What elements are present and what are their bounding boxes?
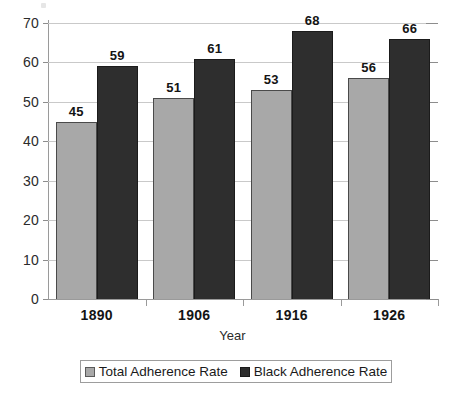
y-axis-tick-mark <box>43 220 48 221</box>
x-axis-tick-label: 1926 <box>341 307 439 323</box>
x-axis-category-separator <box>146 299 147 306</box>
y-axis-tick-label: 0 <box>31 291 39 307</box>
bar-chart: 0102030405060704559516153685666 18901906… <box>0 0 465 395</box>
y-axis-tick-mark <box>43 141 48 142</box>
y-axis-tick-label: 10 <box>23 252 39 268</box>
plot-area: 0102030405060704559516153685666 <box>48 23 438 299</box>
y-axis-tick-mark-right <box>426 299 438 300</box>
bar <box>251 90 292 299</box>
bar-value-label: 53 <box>251 72 292 87</box>
scan-artifact <box>41 3 46 8</box>
x-axis-tick-label: 1916 <box>243 307 341 323</box>
legend-item: Black Adherence Rate <box>240 364 388 379</box>
legend-swatch-icon <box>85 367 95 377</box>
x-axis-tick-label: 1890 <box>48 307 146 323</box>
gridline <box>48 23 438 24</box>
y-axis-tick-mark <box>43 299 48 300</box>
bar-value-label: 61 <box>194 41 235 56</box>
chart-legend: Total Adherence RateBlack Adherence Rate <box>80 360 392 383</box>
x-axis-title: Year <box>0 328 465 343</box>
legend-item: Total Adherence Rate <box>85 364 228 379</box>
bar <box>153 98 194 299</box>
bar <box>292 31 333 299</box>
x-axis-category-separator <box>438 299 439 306</box>
bar-value-label: 68 <box>292 13 333 28</box>
bar-value-label: 51 <box>153 80 194 95</box>
y-axis-tick-mark <box>43 181 48 182</box>
bar <box>56 122 97 299</box>
legend-swatch-icon <box>240 367 250 377</box>
x-axis-tick-label: 1906 <box>146 307 244 323</box>
y-axis-tick-mark <box>43 23 48 24</box>
bar-value-label: 56 <box>348 60 389 75</box>
x-axis-category-separator <box>243 299 244 306</box>
bar-value-label: 59 <box>97 48 138 63</box>
bar <box>348 78 389 299</box>
y-axis-tick-label: 20 <box>23 212 39 228</box>
y-axis-tick-label: 60 <box>23 54 39 70</box>
bar <box>389 39 430 299</box>
legend-label: Black Adherence Rate <box>254 364 388 379</box>
y-axis-tick-mark <box>43 260 48 261</box>
legend-label: Total Adherence Rate <box>99 364 228 379</box>
bar <box>97 66 138 299</box>
bar-value-label: 45 <box>56 104 97 119</box>
bar-value-label: 66 <box>389 21 430 36</box>
y-axis-tick-label: 40 <box>23 133 39 149</box>
x-axis-category-separator <box>341 299 342 306</box>
y-axis-tick-label: 30 <box>23 173 39 189</box>
y-axis-tick-mark <box>43 102 48 103</box>
y-axis-tick-label: 50 <box>23 94 39 110</box>
y-axis-tick-label: 70 <box>23 15 39 31</box>
y-axis-tick-mark <box>43 62 48 63</box>
bar <box>194 59 235 300</box>
